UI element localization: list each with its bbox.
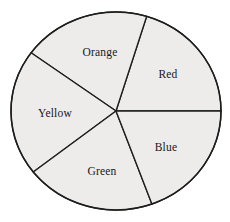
pie-slice-label-blue: Blue — [155, 141, 178, 153]
pie-slice-label-orange: Orange — [82, 46, 117, 58]
pie-slice-label-yellow: Yellow — [38, 107, 72, 119]
pie-slice-label-red: Red — [158, 68, 177, 80]
pie-chart-canvas — [0, 0, 230, 222]
pie-chart: RedOrangeYellowGreenBlue — [0, 0, 230, 222]
pie-slice-label-green: Green — [87, 165, 116, 177]
